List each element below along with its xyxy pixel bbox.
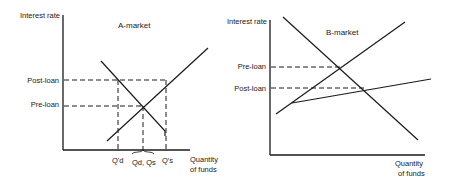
a-x-axis-label-2: of funds xyxy=(190,165,217,174)
b-post-loan-label: Post-loan xyxy=(234,84,266,93)
panel-a-market: Interest rate A-market Post-loan Pre-loa… xyxy=(20,11,218,174)
loanable-funds-diagram: Interest rate A-market Post-loan Pre-loa… xyxy=(0,0,449,185)
a-title: A-market xyxy=(118,21,151,30)
b-supply-post-line xyxy=(292,79,431,103)
a-demand-line xyxy=(101,61,165,136)
b-pre-loan-label: Pre-loan xyxy=(238,62,266,71)
b-x-axis-label-2: of funds xyxy=(398,169,425,178)
a-q-d-q-s-label: Qd, Qs xyxy=(132,158,156,167)
b-x-axis-label-1: Quantity xyxy=(395,159,423,168)
a-x-axis-label-1: Quantity xyxy=(190,155,218,164)
a-q-prime-d-label: Q'd xyxy=(112,156,123,165)
a-q-prime-s-label: Q's xyxy=(162,156,173,165)
a-y-axis-label: Interest rate xyxy=(20,11,60,20)
a-supply-line xyxy=(107,48,208,141)
a-post-loan-label: Post-loan xyxy=(27,76,59,85)
panel-b-market: Interest rate B-market Pre-loan Post-loa… xyxy=(227,17,431,178)
b-title: B-market xyxy=(326,28,359,37)
b-y-axis-label: Interest rate xyxy=(227,17,267,26)
a-pre-loan-label: Pre-loan xyxy=(31,100,59,109)
